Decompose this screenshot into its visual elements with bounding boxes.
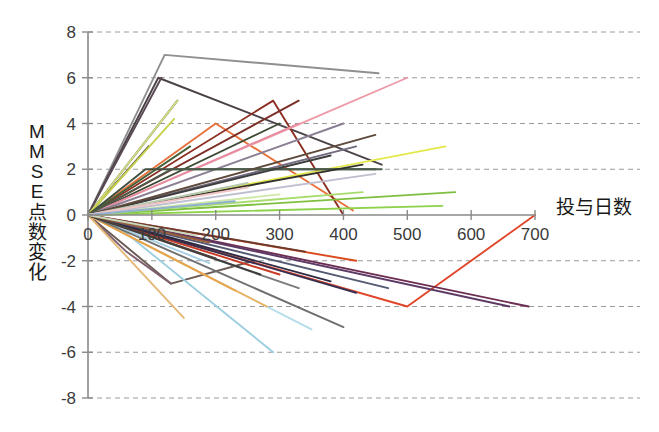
x-tick-label-100: 100 [138,225,166,244]
y-axis-label-char-3: E [31,182,44,202]
x-tick-label-700: 700 [521,225,549,244]
chart-root: 86420-2-4-6-80100200300400500600700 M M … [0,0,659,432]
y-tick-label-2: 2 [67,160,76,179]
y-axis-label-char-5: 数 [28,223,47,243]
y-axis-label: M M S E 点 数 変 化 [22,122,52,283]
x-tick-label-600: 600 [457,225,485,244]
y-tick-label--6: -6 [61,343,76,362]
series-line-s06 [88,101,177,215]
y-axis-label-char-1: M [29,142,45,162]
y-tick-label-0: 0 [67,206,76,225]
x-axis-label: 投与日数 [556,192,632,219]
x-tick-label-400: 400 [329,225,357,244]
y-tick-label-4: 4 [67,115,76,134]
y-axis-label-char-7: 化 [28,263,47,283]
series-group [88,55,535,352]
y-axis-label-char-6: 変 [28,243,47,263]
y-tick-label--4: -4 [61,298,76,317]
x-tick-label-200: 200 [202,225,230,244]
y-axis-label-char-4: 点 [28,203,47,223]
axes-group [88,32,535,398]
y-tick-label--2: -2 [61,252,76,271]
y-axis-label-char-2: S [31,162,44,182]
x-tick-label-500: 500 [393,225,421,244]
x-tick-label-300: 300 [265,225,293,244]
x-tick-label-0: 0 [83,225,92,244]
y-tick-label-8: 8 [67,23,76,42]
y-axis-label-char-0: M [29,122,45,142]
y-tick-label--8: -8 [61,389,76,408]
y-tick-label-6: 6 [67,69,76,88]
